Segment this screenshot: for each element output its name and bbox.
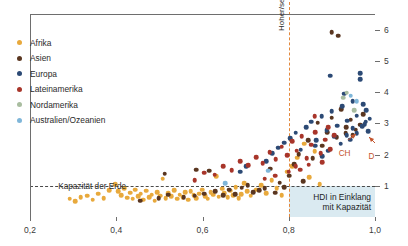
- data-point: [320, 160, 325, 165]
- x-tick-mark: [116, 217, 117, 221]
- data-point: [290, 139, 295, 144]
- data-point: [128, 190, 133, 195]
- legend-item-label: Nordamerika: [30, 100, 78, 110]
- data-point: [90, 197, 95, 202]
- data-point: [267, 150, 272, 155]
- data-point: [223, 181, 228, 186]
- data-point: [246, 163, 251, 168]
- data-point: [280, 144, 285, 149]
- data-point: [274, 157, 279, 162]
- x-tick-label: 1,0: [369, 225, 381, 235]
- data-point: [330, 109, 335, 114]
- data-point: [318, 182, 323, 187]
- data-point: [261, 161, 266, 166]
- data-point: [299, 134, 304, 139]
- data-point: [227, 187, 232, 192]
- data-point: [264, 191, 269, 196]
- legend-item-lateinamerika[interactable]: Lateinamerika: [17, 82, 105, 98]
- legend-item-nordamerika[interactable]: Nordamerika: [17, 97, 105, 113]
- data-point: [312, 114, 317, 119]
- country-ch-label: CH: [339, 149, 351, 158]
- legend-swatch-icon: [17, 40, 22, 45]
- data-point: [273, 173, 278, 178]
- data-point: [336, 34, 341, 39]
- legend-item-label: Afrika: [30, 38, 51, 48]
- data-point: [323, 137, 328, 142]
- x-tick-label: 0,2: [24, 225, 36, 235]
- data-point: [313, 130, 318, 135]
- data-point: [172, 188, 177, 193]
- balance-box-label: HDI in Einklang mit Kapazität: [293, 192, 371, 213]
- data-point: [358, 71, 363, 76]
- x-tick-mark: [375, 217, 376, 221]
- data-point: [341, 95, 346, 100]
- data-point: [315, 120, 320, 125]
- y-tick-label: 6: [384, 25, 389, 35]
- data-point: [360, 124, 365, 129]
- data-point: [328, 74, 333, 79]
- data-point: [364, 108, 369, 113]
- y-tick-label: 3: [384, 118, 389, 128]
- data-point: [251, 190, 256, 195]
- legend-item-europa[interactable]: Europa: [17, 66, 105, 82]
- country-d-arrow-icon: [361, 133, 401, 157]
- data-point: [305, 156, 310, 161]
- y-tick-mark: [375, 92, 380, 93]
- data-point: [119, 193, 124, 198]
- data-point: [293, 130, 298, 135]
- data-point: [340, 104, 345, 109]
- data-point: [67, 197, 72, 202]
- data-point: [73, 199, 78, 204]
- data-point: [273, 190, 278, 195]
- data-point: [233, 185, 238, 190]
- legend-item-australien-ozeanien[interactable]: Australien/Ozeanien: [17, 113, 105, 129]
- x-tick-label: 0,6: [197, 225, 209, 235]
- data-point: [96, 192, 101, 197]
- data-point: [202, 170, 207, 175]
- data-point: [318, 151, 323, 156]
- data-point: [192, 178, 197, 183]
- data-point: [144, 188, 149, 193]
- data-point: [162, 172, 167, 177]
- data-point: [239, 192, 244, 197]
- data-point: [221, 193, 226, 198]
- data-point: [239, 185, 244, 190]
- data-point: [166, 193, 171, 198]
- data-point: [192, 193, 197, 198]
- data-point: [85, 193, 90, 198]
- data-point: [161, 177, 166, 182]
- data-point: [293, 164, 298, 169]
- x-tick-mark: [203, 217, 204, 221]
- y-tick-mark: [375, 61, 380, 62]
- data-point: [287, 173, 292, 178]
- data-point: [312, 149, 317, 154]
- legend-item-label: Europa: [30, 69, 57, 79]
- legend-item-label: Australien/Ozeanien: [30, 115, 105, 125]
- data-point: [181, 195, 186, 200]
- data-point: [133, 187, 138, 192]
- data-point: [269, 178, 274, 183]
- data-point: [225, 195, 230, 200]
- data-point: [138, 198, 143, 203]
- legend-item-label: Lateinamerika: [30, 84, 83, 94]
- data-point: [130, 197, 135, 202]
- x-tick-label: 0,8: [283, 225, 295, 235]
- capacity-line-label: Kapazität der Erde: [26, 181, 126, 190]
- x-tick-label: 0,4: [110, 225, 122, 235]
- legend-item-asien[interactable]: Asien: [17, 51, 105, 67]
- x-tick-mark: [30, 217, 31, 221]
- data-point: [236, 196, 241, 201]
- legend-swatch-icon: [17, 118, 22, 123]
- data-point: [205, 196, 210, 201]
- data-point: [207, 168, 212, 173]
- legend-swatch-icon: [17, 102, 22, 107]
- data-point: [212, 173, 217, 178]
- legend-swatch-icon: [17, 71, 22, 76]
- data-point: [328, 147, 333, 152]
- data-point: [285, 153, 290, 158]
- data-point: [330, 30, 335, 35]
- legend: AfrikaAsienEuropaLateinamerikaNordamerik…: [17, 35, 105, 128]
- data-point: [319, 114, 324, 119]
- legend-item-afrika[interactable]: Afrika: [17, 35, 105, 51]
- data-point: [320, 143, 325, 148]
